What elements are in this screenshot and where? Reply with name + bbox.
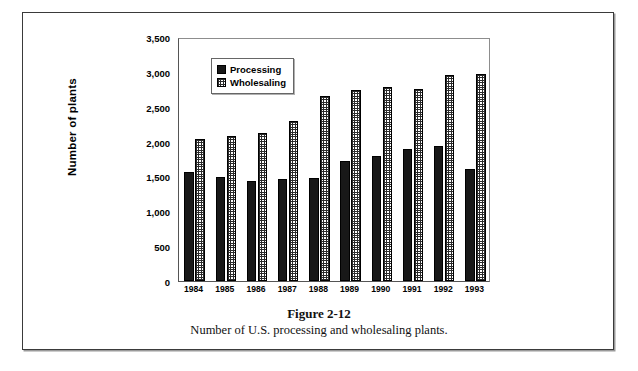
bar-chart: Number of plants 05001,0001,5002,0002,50…	[23, 13, 615, 295]
y-axis-tick-label: 1,500	[146, 172, 170, 183]
bar-processing-1993	[465, 169, 475, 281]
bar-wholesaling-1992	[445, 75, 455, 281]
y-axis-tick-label: 500	[154, 242, 170, 253]
bar-wholesaling-1985	[227, 136, 237, 281]
bar-processing-1987	[278, 179, 288, 281]
bar-processing-1989	[340, 161, 350, 281]
figure-number: Figure 2-12	[23, 305, 615, 322]
bar-processing-1991	[403, 149, 413, 281]
x-axis-tick-label: 1988	[309, 284, 328, 294]
bar-wholesaling-1987	[289, 121, 299, 281]
solid-black-swatch	[217, 65, 226, 74]
x-axis-tick-label: 1984	[184, 284, 203, 294]
figure-page: Number of plants 05001,0001,5002,0002,50…	[0, 0, 638, 371]
bar-wholesaling-1990	[383, 87, 393, 281]
bar-wholesaling-1988	[320, 96, 330, 281]
bar-processing-1986	[247, 181, 257, 281]
bar-wholesaling-1991	[414, 89, 424, 281]
bar-processing-1984	[184, 172, 194, 281]
bar-group	[460, 39, 491, 281]
bar-processing-1990	[372, 156, 382, 281]
crosshatch-grid-swatch	[217, 78, 226, 87]
y-axis-tick-label: 2,000	[146, 137, 170, 148]
bar-processing-1988	[309, 178, 319, 281]
x-axis-tick-label: 1987	[278, 284, 297, 294]
figure-caption-text: Number of U.S. processing and wholesalin…	[23, 322, 615, 339]
bar-group	[366, 39, 397, 281]
figure-caption-block: Figure 2-12 Number of U.S. processing an…	[23, 305, 615, 339]
bar-wholesaling-1984	[195, 139, 205, 281]
x-axis-tick-label: 1985	[215, 284, 234, 294]
bar-group	[397, 39, 428, 281]
bar-wholesaling-1986	[258, 133, 268, 281]
y-axis-tick-label: 2,500	[146, 102, 170, 113]
y-axis-title: Number of plants	[66, 42, 78, 212]
bar-group	[179, 39, 210, 281]
x-axis-tick-label: 1989	[340, 284, 359, 294]
bar-wholesaling-1993	[476, 74, 486, 281]
chart-legend: ProcessingWholesaling	[211, 58, 294, 94]
bar-group	[335, 39, 366, 281]
y-axis-tick-label: 0	[165, 277, 170, 288]
y-axis-tick-label: 3,000	[146, 67, 170, 78]
bar-wholesaling-1989	[351, 90, 361, 281]
legend-item: Wholesaling	[217, 76, 286, 89]
x-axis-tick-label: 1986	[246, 284, 265, 294]
bar-processing-1985	[216, 177, 226, 281]
y-axis-tick-label: 3,500	[146, 33, 170, 44]
legend-item-label: Wholesaling	[230, 77, 286, 88]
x-axis-tick-label: 1991	[402, 284, 421, 294]
y-axis-tick-labels: 05001,0001,5002,0002,5003,0003,500	[118, 38, 174, 282]
bar-group	[304, 39, 335, 281]
legend-item-label: Processing	[230, 64, 281, 75]
x-axis-tick-label: 1992	[434, 284, 453, 294]
x-axis-tick-label: 1993	[465, 284, 484, 294]
page-border-frame: Number of plants 05001,0001,5002,0002,50…	[22, 12, 614, 350]
bar-group	[429, 39, 460, 281]
x-axis-tick-label: 1990	[371, 284, 390, 294]
bar-processing-1992	[434, 146, 444, 281]
x-axis-tick-labels: 1984198519861987198819891990199119921993	[178, 284, 490, 300]
y-axis-tick-label: 1,000	[146, 207, 170, 218]
legend-item: Processing	[217, 63, 286, 76]
